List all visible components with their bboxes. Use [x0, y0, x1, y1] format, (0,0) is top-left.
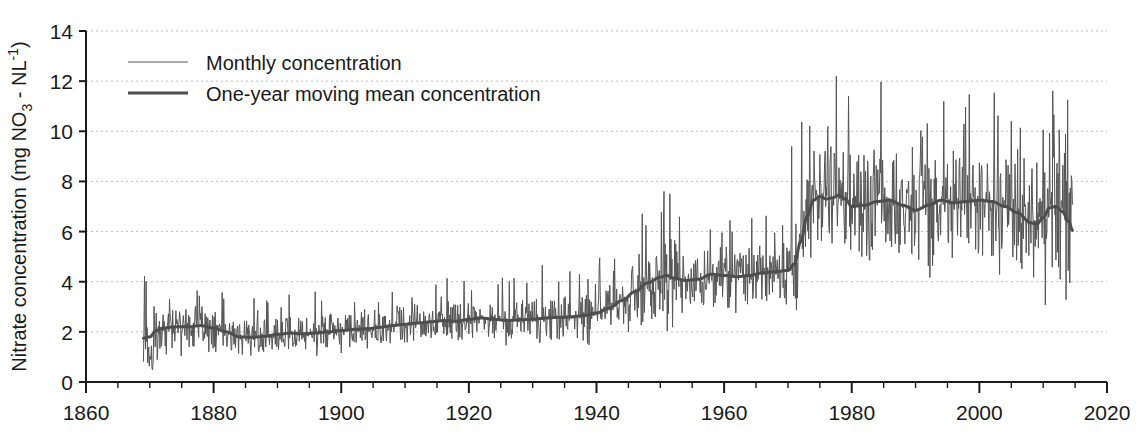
y-tick-label-10: 10: [50, 120, 73, 143]
y-tick-label-0: 0: [61, 371, 73, 394]
x-tick-label-1900: 1900: [318, 401, 365, 424]
legend-label-monthly: Monthly concentration: [206, 52, 402, 74]
y-axis-label: Nitrate concentration (mg NO3 - NL-1): [5, 41, 35, 371]
y-tick-label-2: 2: [61, 321, 73, 344]
y-tick-label-4: 4: [61, 271, 73, 294]
y-tick-label-14: 14: [50, 20, 74, 43]
x-tick-label-1940: 1940: [573, 401, 620, 424]
y-tick-label-6: 6: [61, 221, 73, 244]
series-monthly-concentration: [143, 76, 1072, 370]
data-series: [143, 76, 1072, 370]
y-axis-label-text: Nitrate concentration (mg NO3 - NL-1): [5, 41, 35, 371]
x-tick-label-1920: 1920: [446, 401, 493, 424]
x-tick-label-1980: 1980: [828, 401, 875, 424]
y-axis-label-group: Nitrate concentration (mg NO3 - NL-1): [5, 41, 35, 371]
x-tick-label-1860: 1860: [63, 401, 110, 424]
chart-canvas: 0246810121418601880190019201940196019802…: [0, 0, 1141, 441]
chart-legend: Monthly concentrationOne-year moving mea…: [128, 52, 541, 105]
legend-label-moving-mean: One-year moving mean concentration: [206, 83, 541, 105]
x-tick-label-1960: 1960: [701, 401, 748, 424]
y-tick-label-12: 12: [50, 70, 73, 93]
x-tick-label-1880: 1880: [190, 401, 237, 424]
y-tick-label-8: 8: [61, 170, 73, 193]
x-tick-label-2020: 2020: [1084, 401, 1131, 424]
nitrate-concentration-figure: 0246810121418601880190019201940196019802…: [0, 0, 1141, 441]
x-tick-label-2000: 2000: [956, 401, 1003, 424]
